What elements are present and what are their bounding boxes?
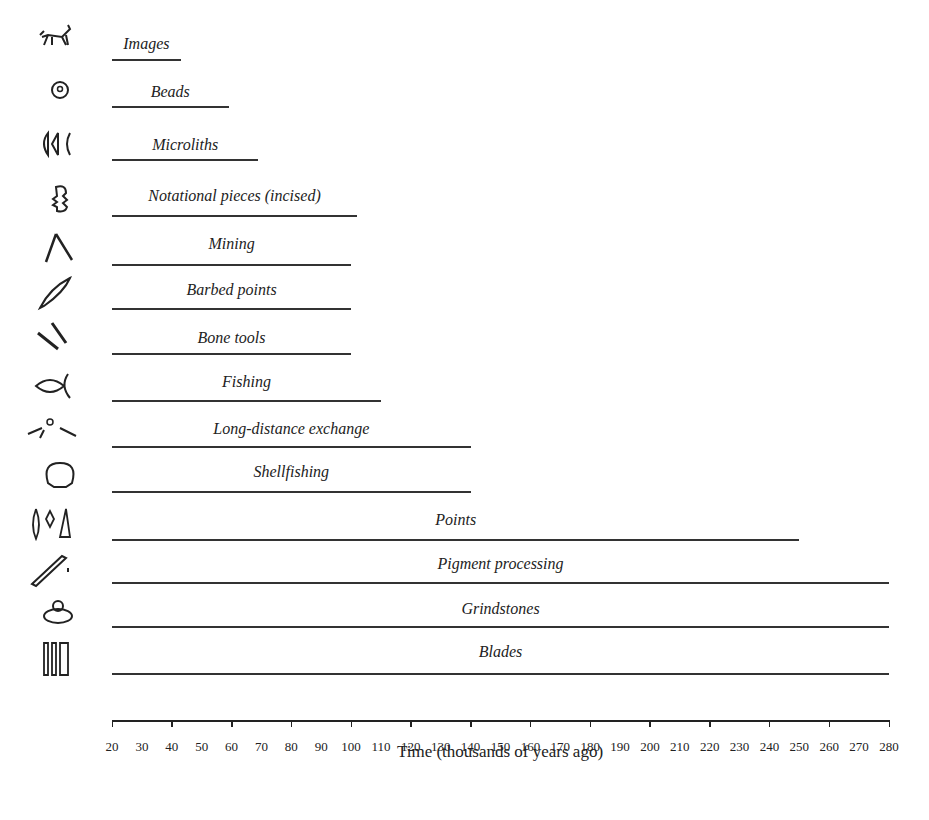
timeline-bar bbox=[112, 673, 889, 675]
x-tick bbox=[410, 720, 412, 727]
timeline-label: Fishing bbox=[222, 373, 271, 391]
timeline-bar bbox=[112, 353, 351, 355]
x-tick-label: 270 bbox=[849, 739, 869, 755]
x-tick bbox=[231, 720, 233, 727]
timeline-bar bbox=[112, 582, 889, 584]
timeline-bar bbox=[112, 626, 889, 628]
pick-icon bbox=[20, 226, 100, 270]
microliths-icon bbox=[20, 121, 100, 165]
x-axis-label: Time (thousands of years ago) bbox=[397, 742, 603, 762]
timeline-label: Pigment processing bbox=[437, 555, 563, 573]
timeline-label: Shellfishing bbox=[254, 463, 330, 481]
x-tick-label: 190 bbox=[610, 739, 630, 755]
x-tick-label: 30 bbox=[135, 739, 148, 755]
timeline-label: Barbed points bbox=[186, 281, 276, 299]
x-axis-line bbox=[112, 720, 889, 722]
x-tick bbox=[829, 720, 831, 727]
x-tick bbox=[351, 720, 353, 727]
x-tick bbox=[709, 720, 711, 727]
shell-icon bbox=[20, 453, 100, 497]
x-tick bbox=[649, 720, 651, 727]
x-tick bbox=[530, 720, 532, 727]
x-tick-label: 280 bbox=[879, 739, 899, 755]
timeline-bar bbox=[112, 264, 351, 266]
bone-tools-icon bbox=[20, 315, 100, 359]
timeline-label: Images bbox=[123, 35, 169, 53]
timeline-label: Microliths bbox=[152, 136, 218, 154]
x-tick-label: 40 bbox=[165, 739, 178, 755]
timeline-bar bbox=[112, 491, 471, 493]
x-tick bbox=[889, 720, 891, 727]
x-tick-label: 230 bbox=[730, 739, 750, 755]
x-tick-label: 90 bbox=[315, 739, 328, 755]
x-tick-label: 220 bbox=[700, 739, 720, 755]
x-tick-label: 210 bbox=[670, 739, 690, 755]
animal-figure-icon bbox=[20, 21, 100, 65]
timeline-bar bbox=[112, 539, 799, 541]
timeline-label: Points bbox=[435, 511, 476, 529]
x-tick-label: 60 bbox=[225, 739, 238, 755]
pigment-brush-icon bbox=[20, 544, 100, 588]
x-tick bbox=[171, 720, 173, 727]
fish-icon bbox=[20, 362, 100, 406]
x-tick-label: 100 bbox=[341, 739, 361, 755]
timeline-bar bbox=[112, 446, 471, 448]
points-icon bbox=[20, 501, 100, 545]
timeline-label: Long-distance exchange bbox=[213, 420, 369, 438]
timeline-bar bbox=[112, 159, 258, 161]
timeline-label: Blades bbox=[479, 643, 523, 661]
timeline-bar bbox=[112, 215, 357, 217]
x-tick-label: 200 bbox=[640, 739, 660, 755]
bead-icon bbox=[20, 68, 100, 112]
timeline-bar bbox=[112, 106, 229, 108]
x-tick-label: 250 bbox=[790, 739, 810, 755]
grindstone-icon bbox=[20, 588, 100, 632]
x-tick-label: 110 bbox=[371, 739, 390, 755]
incised-piece-icon bbox=[20, 177, 100, 221]
blades-icon bbox=[20, 635, 100, 679]
timeline-bar bbox=[112, 400, 381, 402]
timeline-label: Notational pieces (incised) bbox=[148, 187, 320, 205]
x-tick-label: 240 bbox=[760, 739, 780, 755]
x-tick-label: 70 bbox=[255, 739, 268, 755]
x-tick bbox=[112, 720, 114, 727]
timeline-bar bbox=[112, 59, 181, 61]
timeline-label: Mining bbox=[208, 235, 254, 253]
x-tick-label: 260 bbox=[819, 739, 839, 755]
x-tick bbox=[769, 720, 771, 727]
timeline-bar bbox=[112, 308, 351, 310]
x-tick-label: 20 bbox=[106, 739, 119, 755]
timeline-chart: ImagesBeadsMicrolithsNotational pieces (… bbox=[0, 0, 929, 820]
timeline-label: Beads bbox=[151, 83, 190, 101]
timeline-label: Grindstones bbox=[461, 600, 539, 618]
x-tick-label: 50 bbox=[195, 739, 208, 755]
barbed-point-icon bbox=[20, 270, 100, 314]
hands-exchange-icon bbox=[20, 408, 100, 452]
x-tick bbox=[590, 720, 592, 727]
x-tick bbox=[291, 720, 293, 727]
x-tick-label: 80 bbox=[285, 739, 298, 755]
timeline-label: Bone tools bbox=[198, 329, 266, 347]
x-tick bbox=[470, 720, 472, 727]
